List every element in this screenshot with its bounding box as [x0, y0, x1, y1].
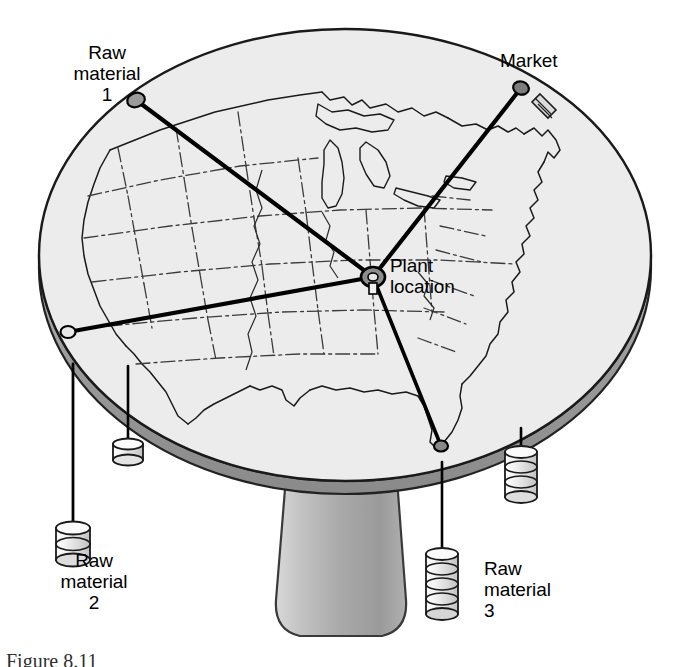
label-plant-location: Plant location — [390, 255, 540, 297]
label-raw-material-2: Raw material 2 — [24, 550, 164, 613]
label-raw-material-1: Raw material 1 — [44, 42, 170, 105]
anchor-eyelet-raw-material-3 — [434, 441, 448, 452]
figure-container: Raw material 1 Market Plant location Raw… — [0, 0, 690, 667]
weight-stack-market — [505, 446, 537, 503]
weight-stack-raw-material-1 — [113, 439, 143, 466]
figure-caption: Figure 8.11 — [6, 650, 306, 667]
anchor-eyelet-raw-material-2 — [61, 326, 76, 338]
label-raw-material-3: Raw material 3 — [484, 558, 614, 621]
weight-stack-raw-material-3 — [426, 548, 458, 620]
label-market: Market — [500, 50, 620, 71]
